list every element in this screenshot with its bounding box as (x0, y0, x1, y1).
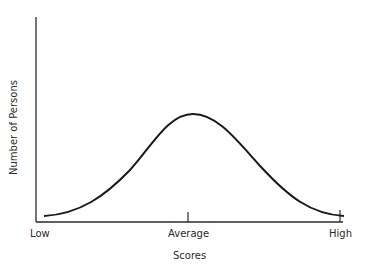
bell-curve (44, 114, 344, 216)
x-tick-low: Low (30, 228, 50, 239)
x-tick-average: Average (168, 228, 209, 239)
x-axis-label: Scores (173, 250, 206, 261)
x-tick-high: High (329, 228, 352, 239)
y-axis-label: Number of Persons (8, 78, 19, 178)
